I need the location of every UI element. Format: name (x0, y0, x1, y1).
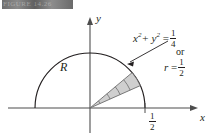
connector-or: or (176, 47, 184, 57)
equation-plus-y: + y (141, 32, 156, 44)
fraction-one-half: 12 (149, 112, 156, 132)
equation-polar: r =12 (164, 58, 186, 78)
fraction-numerator: 1 (178, 58, 185, 67)
fraction-numerator: 1 (170, 29, 177, 38)
leader-arrowhead (127, 62, 134, 67)
equation-cartesian: x2+ y2 =14 (133, 29, 177, 49)
x-axis-arrowhead (190, 105, 198, 111)
fraction-one-half-polar: 12 (178, 58, 185, 78)
equation-exponent-2: 2 (156, 31, 160, 39)
y-axis-label: y (96, 13, 101, 24)
polar-r: r (164, 61, 168, 73)
x-axis-label: x (200, 112, 205, 123)
fraction-denominator: 2 (149, 121, 156, 132)
y-axis-arrowhead (87, 17, 93, 25)
equation-equals: = (163, 32, 169, 44)
fraction-denominator: 2 (178, 67, 185, 78)
fraction-numerator: 1 (149, 112, 156, 121)
figure-canvas: FIGURE 14.26 R (0, 0, 214, 140)
region-label-R: R (60, 61, 67, 73)
x-tick-label-half: 12 (148, 112, 157, 132)
y-axis (87, 17, 93, 133)
polar-equals: = (171, 61, 177, 73)
x-axis (8, 105, 198, 111)
